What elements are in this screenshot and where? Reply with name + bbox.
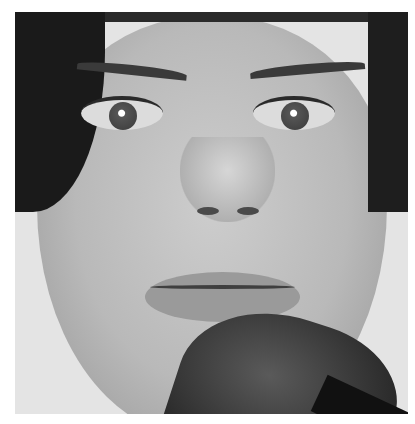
iris-right <box>281 102 309 130</box>
nostril-right <box>237 207 259 215</box>
eye-right <box>253 96 335 130</box>
lip-line <box>150 285 295 289</box>
nose <box>180 137 275 222</box>
portrait-photo <box>15 12 408 414</box>
hair-right <box>368 12 408 212</box>
eye-left <box>81 96 163 130</box>
iris-left <box>109 102 137 130</box>
nostril-left <box>197 207 219 215</box>
